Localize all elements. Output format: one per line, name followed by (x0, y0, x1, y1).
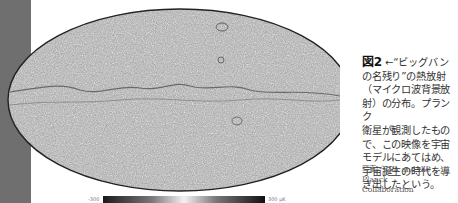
credit-line: 写真／ESA and the Planck (362, 165, 458, 185)
caption-line: 射）の分布。プランク (362, 97, 458, 124)
figure-label: 図2 (362, 55, 382, 69)
colorbar-max-label: 300 μK (268, 196, 286, 202)
colorbar-min-label: -300 (88, 196, 99, 202)
caption-line: で、この映像を宇宙 (362, 138, 458, 152)
caption-line: 衛星が観測したもの (362, 124, 458, 138)
cmb-map (0, 0, 340, 203)
caption-line: モデルにあてはめ、 (362, 151, 458, 165)
colorbar (103, 196, 265, 203)
credit-line: Collaboration (362, 185, 458, 195)
caption-line: （マイクロ波背景放 (362, 83, 458, 97)
photo-credit: 写真／ESA and the Planck Collaboration (362, 165, 458, 195)
caption-line: “ビッグバン (393, 57, 448, 68)
cmb-map-graphic (0, 0, 340, 203)
caption-line: の名残り”の熱放射 (362, 70, 458, 84)
